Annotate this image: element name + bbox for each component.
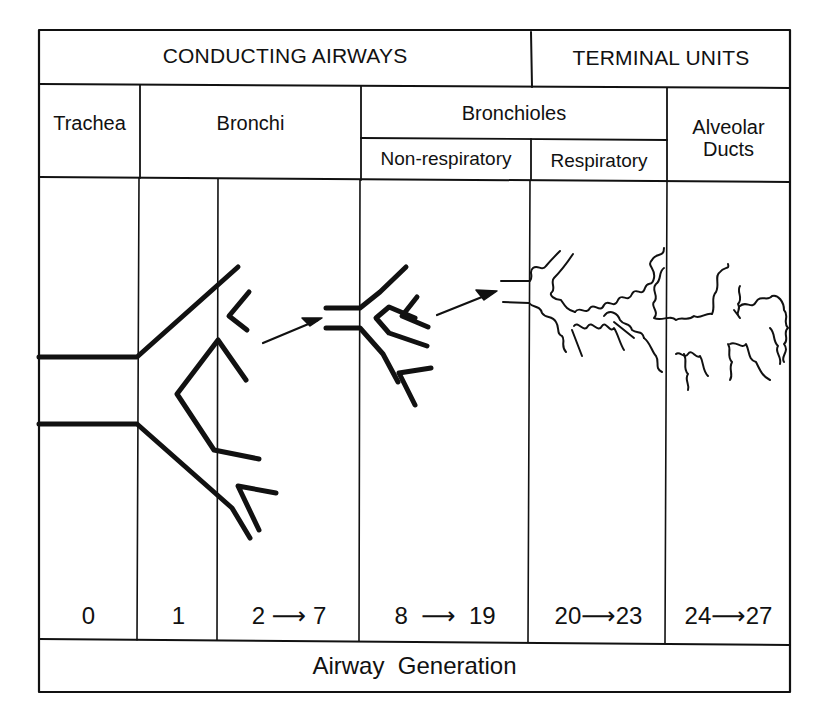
gen-to: 27: [746, 602, 773, 629]
gen-to: 19: [469, 602, 496, 629]
right-arrow-icon: ⟶: [711, 602, 745, 629]
bronchioles-label: Bronchioles: [361, 102, 667, 125]
gen-from: 24: [685, 602, 712, 629]
gen-from: 1: [172, 602, 185, 629]
airway-generation-diagram: CONDUCTING AIRWAYS TERMINAL UNITS Trache…: [0, 0, 821, 714]
bronchi-drawing: [39, 267, 276, 538]
generation-24-27: 24⟶27: [667, 602, 790, 630]
alveoli-drawing: [501, 248, 788, 390]
gen-from: 20: [555, 602, 582, 629]
gen-from: 8: [394, 602, 407, 629]
generation-2-7: 2 ⟶ 7: [218, 602, 360, 630]
right-arrow-icon: ⟶: [581, 602, 615, 629]
gen-to: 23: [616, 602, 643, 629]
bronchioles-drawing: [326, 267, 431, 405]
airway-generation-label: Airway Generation: [39, 652, 790, 680]
right-arrow-icon: ⟶: [272, 602, 306, 629]
terminal-units-header: TERMINAL UNITS: [532, 46, 790, 70]
respiratory-label: Respiratory: [531, 150, 667, 172]
right-arrow-icon: ⟶: [421, 602, 455, 629]
generation-1: 1: [139, 602, 218, 630]
generation-20-23: 20⟶23: [530, 602, 667, 630]
trachea-label: Trachea: [39, 112, 140, 135]
conducting-airways-header: CONDUCTING AIRWAYS: [39, 44, 531, 68]
bronchi-label: Bronchi: [140, 112, 361, 135]
ducts-label: Ducts: [667, 138, 790, 161]
generation-0: 0: [39, 602, 138, 630]
non-respiratory-label: Non-respiratory: [361, 148, 531, 170]
gen-from: 0: [82, 602, 95, 629]
generation-8-19: 8 ⟶ 19: [360, 602, 530, 630]
gen-to: 7: [313, 602, 326, 629]
gen-from: 2: [252, 602, 265, 629]
alveolar-label: Alveolar: [667, 116, 790, 139]
